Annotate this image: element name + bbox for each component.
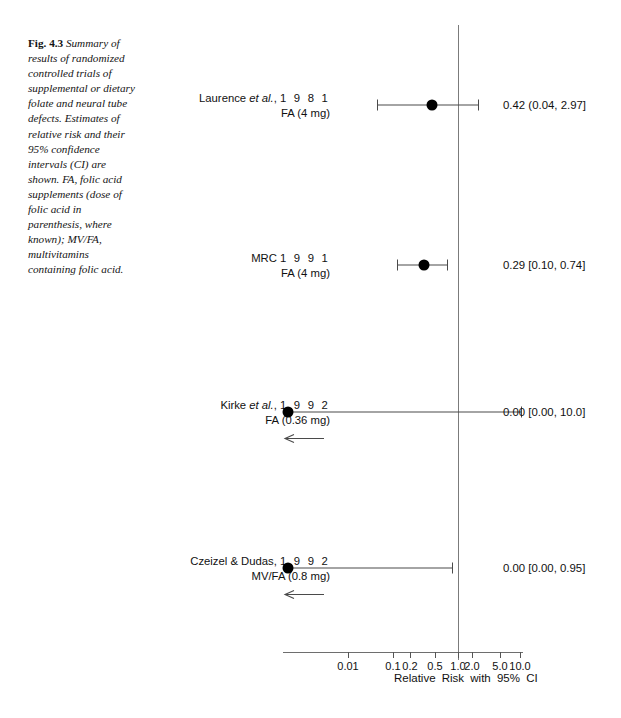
- ci-cap-upper: [447, 260, 448, 271]
- x-tick-label: 0.5: [427, 660, 442, 672]
- study-label: MRC 1 9 9 1FA (4 mg): [251, 251, 330, 280]
- x-tick-label: 0.01: [337, 660, 358, 672]
- statistic-text: 0.42 (0.04, 2.97]: [503, 99, 586, 111]
- x-tick-label: 10.0: [509, 660, 530, 672]
- figure-page: Fig. 4.3 Summary of results of randomize…: [0, 0, 621, 718]
- study-treatment: FA (4 mg): [251, 265, 330, 280]
- x-tick-label: 2.0: [464, 660, 479, 672]
- point-estimate-marker: [283, 563, 294, 574]
- reference-line: [458, 25, 459, 660]
- x-tick: [393, 652, 394, 658]
- x-tick: [458, 652, 459, 658]
- ci-cap-lower: [377, 100, 378, 111]
- x-tick: [435, 652, 436, 658]
- x-tick-label: 0.2: [402, 660, 417, 672]
- x-tick-label: 0.1: [385, 660, 400, 672]
- confidence-interval-bar: [288, 412, 521, 413]
- point-estimate-marker: [427, 100, 438, 111]
- truncation-arrow-left-icon: [283, 430, 325, 439]
- x-tick: [520, 652, 521, 658]
- study-treatment: FA (0.36 mg): [220, 412, 330, 427]
- study-treatment: FA (4 mg): [199, 105, 330, 120]
- x-tick-label: 1.0: [450, 660, 465, 672]
- study-label: Laurence et al., 1 9 8 1FA (4 mg): [199, 91, 330, 120]
- study-treatment: MV/FA (0.8 mg): [190, 568, 330, 583]
- point-estimate-marker: [283, 407, 294, 418]
- x-tick: [348, 652, 349, 658]
- study-name: Kirke et al., 1 9 9 2: [220, 399, 330, 411]
- point-estimate-marker: [419, 260, 430, 271]
- truncation-arrow-left-icon: [283, 586, 325, 595]
- ci-cap-upper: [452, 563, 453, 574]
- study-name: Laurence et al., 1 9 8 1: [199, 92, 330, 104]
- confidence-interval-bar: [288, 568, 452, 569]
- x-tick-label: 5.0: [492, 660, 507, 672]
- x-axis-title: Relative Risk with 95% CI: [394, 672, 538, 684]
- statistic-text: 0.29 [0.10, 0.74]: [503, 259, 585, 271]
- ci-cap-upper: [478, 100, 479, 111]
- study-name: Czeizel & Dudas, 1 9 9 2: [190, 555, 330, 567]
- x-axis-line: [283, 652, 523, 653]
- x-tick: [410, 652, 411, 658]
- ci-cap-lower: [397, 260, 398, 271]
- x-tick: [472, 652, 473, 658]
- forest-plot: 0.010.10.20.51.02.05.010.0 Relative Risk…: [0, 0, 621, 718]
- statistic-text: 0.00 [0.00, 10.0]: [503, 406, 585, 418]
- x-tick: [500, 652, 501, 658]
- study-name: MRC 1 9 9 1: [251, 252, 330, 264]
- statistic-text: 0.00 [0.00, 0.95]: [503, 562, 585, 574]
